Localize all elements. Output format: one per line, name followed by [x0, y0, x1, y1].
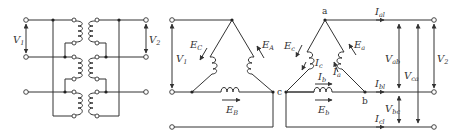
primary-coil-2 [76, 58, 83, 78]
voltage-bc-label: Vbc [385, 103, 400, 116]
line-current-c-label: Icl [374, 113, 385, 126]
emf-c-sec-label: Ec [283, 40, 295, 53]
secondary-coil-3 [89, 93, 96, 115]
output-terminal-b [432, 90, 437, 95]
secondary-coil-2 [89, 58, 96, 78]
secondary-terminal-1 [144, 18, 149, 23]
primary-coil-1 [76, 21, 83, 42]
line-current-b-label: Ibl [374, 78, 385, 91]
output-terminal-c [432, 125, 437, 130]
voltage-ca-label: Vca [404, 70, 419, 83]
secondary-terminal-3 [144, 90, 149, 95]
emf-c-label: EC [189, 39, 202, 52]
node-a-label: a [322, 6, 328, 16]
emf-b-label: EB [225, 104, 238, 117]
node-b-label: b [362, 96, 368, 106]
emf-a-sec-label: Ea [353, 39, 365, 52]
current-b-label: Ib [317, 71, 326, 84]
primary-delta: V1 EC EA EB c [170, 18, 282, 130]
primary-v1-label: V1 [176, 53, 187, 66]
voltage-2-label: V2 [437, 53, 448, 66]
emf-b-sec-label: Eb [317, 104, 329, 117]
secondary-coil-1 [89, 21, 96, 42]
current-c-label: Ic [314, 57, 323, 70]
left-v2-label: V2 [149, 34, 160, 47]
transformer-bank: V1 V2 [13, 18, 160, 118]
primary-terminal-3 [24, 90, 29, 95]
secondary-delta: a b Ial Ibl Icl Vab Vbc Vca V2 Ec Ic Ea [283, 6, 448, 129]
line-current-a-label: Ial [374, 6, 385, 19]
primary-terminal-1 [24, 18, 29, 23]
node-c-label: c [277, 87, 282, 97]
primary-coil-3 [76, 93, 83, 115]
voltage-ab-label: Vab [385, 53, 400, 66]
primary-terminal-2 [24, 55, 29, 60]
output-terminal-a [432, 18, 437, 23]
secondary-terminal-2 [144, 55, 149, 60]
emf-a-label: EA [261, 39, 274, 52]
current-a-label: Ia [332, 66, 341, 79]
delta-delta-transformer-diagram: V1 V2 V1 EC EA EB c [0, 0, 455, 136]
left-v1-label: V1 [13, 34, 24, 47]
